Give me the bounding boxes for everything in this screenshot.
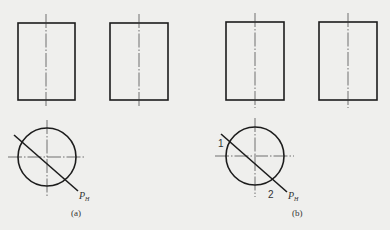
top-view-a: PH (8, 120, 90, 202)
panel-b: 1 2 PH (b) (215, 13, 377, 218)
cutting-plane-trace (221, 134, 287, 192)
side-view-a (110, 14, 168, 108)
panel-a: PH (a) (8, 14, 168, 218)
projection-diagram: PH (a) 1 2 PH (b) (0, 0, 390, 230)
front-view-outline (18, 23, 75, 100)
point-label-2: 2 (268, 189, 274, 200)
caption-b: (b) (292, 208, 303, 218)
plane-label: PH (287, 190, 299, 202)
top-view-b: 1 2 PH (215, 118, 299, 202)
front-view-a (18, 14, 75, 108)
side-view-b (319, 13, 377, 108)
plane-label: PH (78, 190, 90, 202)
point-label-1: 1 (218, 138, 224, 149)
caption-a: (a) (71, 208, 81, 218)
cutting-plane-trace (14, 135, 78, 191)
front-view-b (226, 13, 284, 108)
